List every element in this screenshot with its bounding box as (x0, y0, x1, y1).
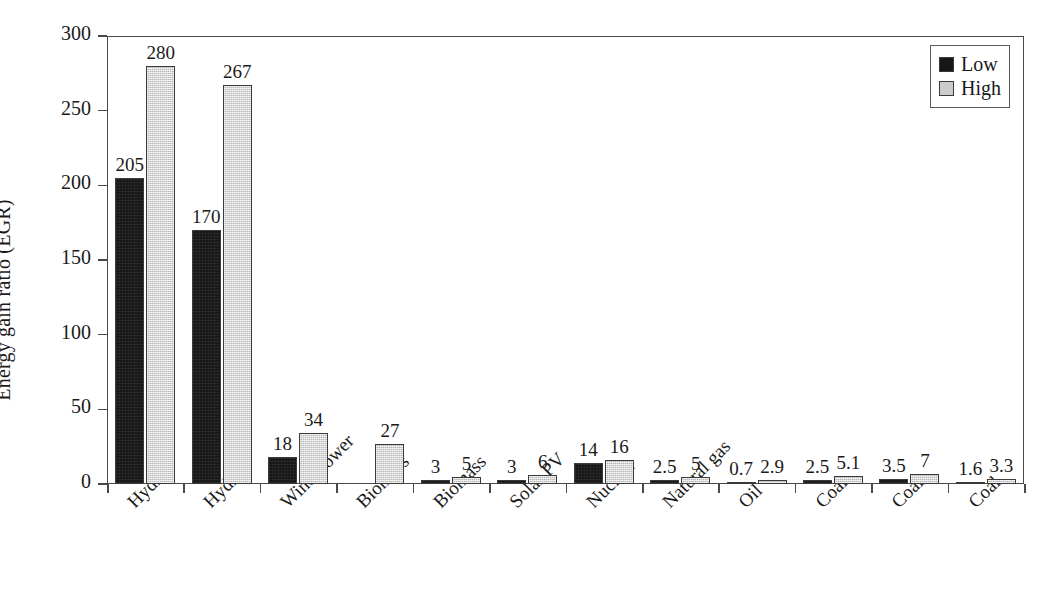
bar-high-0[interactable] (146, 66, 175, 484)
x-tick-mark (413, 484, 415, 493)
bar-value-label-high-10: 7 (895, 450, 955, 472)
legend-label-high: High (961, 78, 1001, 98)
x-tick-mark (642, 484, 644, 493)
x-tick-mark (871, 484, 873, 493)
x-tick-mark (336, 484, 338, 493)
legend-item-high[interactable]: High (939, 76, 1001, 100)
bar-low-11[interactable] (956, 482, 985, 484)
bar-low-1[interactable] (192, 230, 221, 484)
bar-low-7[interactable] (650, 480, 679, 484)
bar-high-6[interactable] (605, 460, 634, 484)
bar-value-label-high-0: 280 (131, 42, 191, 64)
x-tick-mark (260, 484, 262, 493)
bar-low-4[interactable] (421, 480, 450, 484)
bar-value-label-high-11: 3.3 (971, 455, 1031, 477)
bar-high-9[interactable] (834, 476, 863, 484)
x-tick-mark (795, 484, 797, 493)
bar-value-label-high-3: 27 (360, 420, 420, 442)
y-tick-label: 300 (61, 22, 91, 45)
bar-value-label-high-9: 5.1 (818, 452, 878, 474)
bar-value-label-high-2: 34 (284, 409, 344, 431)
bar-low-2[interactable] (268, 457, 297, 484)
x-tick-mark (948, 484, 950, 493)
y-tick-label: 0 (81, 470, 91, 493)
x-tick-mark (107, 484, 109, 493)
bar-high-11[interactable] (987, 479, 1016, 484)
bar-low-9[interactable] (803, 480, 832, 484)
x-tick-mark (489, 484, 491, 493)
bar-value-label-high-8: 2.9 (742, 456, 802, 478)
bar-high-3[interactable] (375, 444, 404, 484)
bar-value-label-high-5: 6 (513, 451, 573, 473)
y-tick-mark (98, 35, 107, 37)
bar-value-label-high-4: 5 (436, 453, 496, 475)
bar-low-8[interactable] (727, 482, 756, 484)
y-tick-mark (98, 185, 107, 187)
x-category-label-8: Oil (734, 480, 767, 513)
y-tick-label: 250 (61, 97, 91, 120)
x-tick-mark (566, 484, 568, 493)
bar-low-5[interactable] (497, 480, 526, 484)
y-tick-label: 50 (71, 395, 91, 418)
bar-high-4[interactable] (452, 477, 481, 484)
bar-value-label-high-1: 267 (207, 61, 267, 83)
bar-high-8[interactable] (758, 480, 787, 484)
y-tick-mark (98, 110, 107, 112)
x-tick-mark (1024, 484, 1026, 493)
bar-high-7[interactable] (681, 477, 710, 484)
bar-low-0[interactable] (115, 178, 144, 484)
y-tick-label: 200 (61, 171, 91, 194)
bar-low-10[interactable] (879, 479, 908, 484)
bar-high-1[interactable] (223, 85, 252, 484)
bar-high-10[interactable] (910, 474, 939, 484)
y-tick-label: 150 (61, 246, 91, 269)
y-tick-label: 100 (61, 321, 91, 344)
y-tick-mark (98, 259, 107, 261)
chart-figure: Energy gain ratio (EGR) 0501001502002503… (0, 0, 1059, 592)
legend-label-low: Low (961, 54, 998, 74)
x-tick-mark (183, 484, 185, 493)
legend-item-low[interactable]: Low (939, 52, 1001, 76)
bar-low-6[interactable] (574, 463, 603, 484)
legend-swatch-low-icon (939, 57, 954, 72)
bar-value-label-high-6: 16 (589, 436, 649, 458)
bar-high-5[interactable] (528, 475, 557, 484)
y-tick-mark (98, 483, 107, 485)
y-axis-title: Energy gain ratio (EGR) (0, 150, 15, 450)
chart-legend: Low High (930, 45, 1010, 108)
bar-value-label-high-7: 5 (666, 453, 726, 475)
y-tick-mark (98, 409, 107, 411)
bar-high-2[interactable] (299, 433, 328, 484)
legend-swatch-high-icon (939, 81, 954, 96)
x-tick-mark (718, 484, 720, 493)
y-tick-mark (98, 334, 107, 336)
